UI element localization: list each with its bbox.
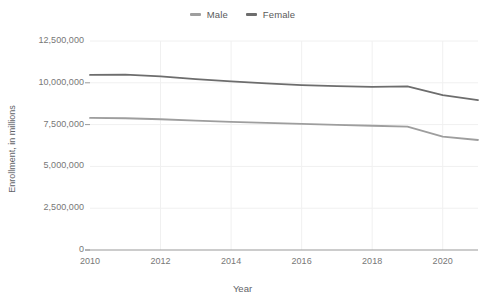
y-axis-title: Enrollment, in millions: [7, 74, 17, 224]
x-tick-label: 2020: [433, 256, 453, 266]
x-tick-label: 2016: [292, 256, 312, 266]
x-axis-title: Year: [0, 283, 485, 294]
x-tick-label: 2010: [80, 256, 100, 266]
x-tick-label: 2012: [150, 256, 170, 266]
x-tick-label: 2018: [362, 256, 382, 266]
line-chart: Male Female 02,500,0005,000,0007,500,000…: [0, 0, 485, 307]
x-axis-tick-labels: 201020122014201620182020: [0, 0, 485, 307]
x-tick-label: 2014: [221, 256, 241, 266]
